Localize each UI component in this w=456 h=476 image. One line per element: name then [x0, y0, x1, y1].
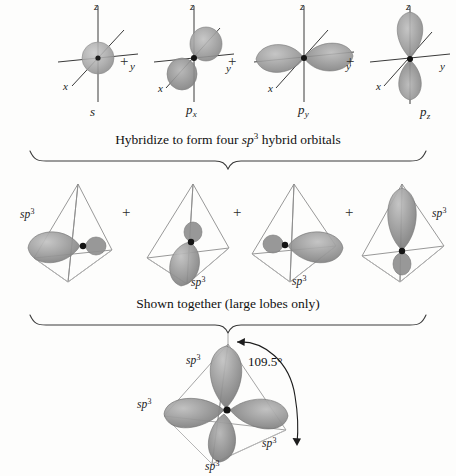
sp3-hybrid-4-label: sp3	[432, 206, 447, 219]
hybridize-caption-post: hybrid orbitals	[258, 132, 341, 147]
combined-sp3-label-bottom: sp3	[205, 459, 220, 472]
axis-label-y: y	[130, 60, 135, 72]
px-orbital-label-base: p	[186, 102, 193, 117]
axis-label-z: z	[94, 0, 98, 12]
bond-angle-label: 109.5°	[248, 354, 282, 370]
shown-together-caption: Shown together (large lobes only)	[0, 296, 456, 312]
sp3-hybrid-2-label: sp3	[191, 275, 206, 288]
sp3-hybrid-4: sp3	[356, 178, 456, 296]
hybridize-caption-italic: sp	[242, 132, 254, 147]
combined-sp3-label-top-left: sp3	[186, 353, 201, 366]
py-orbital-label-sub: y	[305, 109, 309, 119]
hybridize-caption: Hybridize to form four sp3 hybrid orbita…	[0, 131, 456, 148]
axis-label-z: z	[190, 0, 194, 12]
hybrid-operator-plus-2: +	[233, 205, 241, 220]
axis-label-x: x	[376, 80, 381, 92]
py-orbital-label: py	[298, 102, 309, 119]
py-orbital: z y x	[250, 4, 358, 104]
pz-orbital-label-sub: z	[427, 111, 431, 121]
combined-sp3-tetrahedron: sp3 sp3 sp3 sp3 109.5°	[140, 334, 320, 476]
axis-label-z: z	[406, 0, 410, 12]
pz-orbital-label-base: p	[420, 104, 427, 119]
hybridize-caption-pre: Hybridize to form four	[115, 132, 242, 147]
sp3-hybrid-2: sp3	[133, 180, 241, 296]
pz-orbital-label: pz	[420, 104, 430, 121]
operator-plus-1: +	[120, 54, 128, 69]
operator-plus-3: +	[346, 54, 354, 69]
px-orbital-label: px	[186, 102, 197, 119]
hybrid-operator-plus-1: +	[122, 205, 130, 220]
sp3-hybrid-3-label: sp3	[292, 274, 307, 287]
brace-hybridize	[0, 148, 456, 170]
sp3-hybrid-3: sp3	[244, 180, 354, 296]
combined-sp3-label-left: sp3	[137, 397, 152, 410]
axis-label-x: x	[63, 80, 68, 92]
axis-label-z: z	[300, 0, 304, 12]
brace-shown-together	[0, 312, 456, 334]
axis-label-x: x	[268, 82, 273, 94]
s-orbital: z y x	[52, 4, 144, 104]
s-orbital-label-base: s	[90, 104, 95, 119]
pz-orbital: z y x	[366, 2, 454, 106]
axis-label-x: x	[158, 82, 163, 94]
figure-canvas: z y x s + z y	[0, 0, 456, 476]
hybrid-operator-plus-3: +	[345, 205, 353, 220]
px-orbital-label-sub: x	[193, 109, 197, 119]
combined-sp3-label-bottom-right: sp3	[262, 436, 277, 449]
py-orbital-label-base: p	[298, 102, 305, 117]
s-orbital-label: s	[90, 104, 95, 120]
operator-plus-2: +	[228, 54, 236, 69]
axis-label-y: y	[440, 60, 445, 72]
sp3-hybrid-1-label: sp3	[20, 207, 35, 220]
sp3-hybrid-1: sp3	[16, 180, 124, 292]
px-orbital: z y x	[148, 4, 240, 104]
